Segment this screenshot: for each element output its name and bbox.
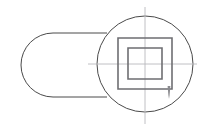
rounded-rectangle-stadium [21, 33, 107, 97]
leader-arrow-tick-icon [168, 86, 171, 99]
line-drawing-svg [0, 0, 213, 130]
drawing-canvas [0, 0, 213, 130]
